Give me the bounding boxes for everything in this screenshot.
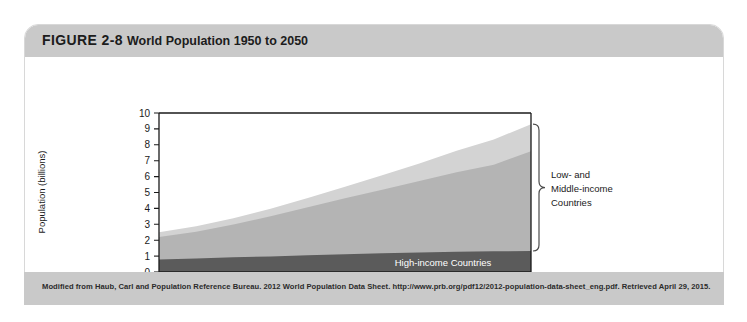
y-tick-label: 2 <box>144 235 150 246</box>
y-tick-label: 6 <box>144 171 150 182</box>
y-axis-title: Population (billions) <box>36 151 47 234</box>
brace-label-line-3: Countries <box>551 197 592 208</box>
y-tick-label: 8 <box>144 139 150 150</box>
low-middle-income-brace-icon <box>533 124 545 251</box>
y-axis-ticks: 012345678910 <box>139 108 159 278</box>
high-income-band-label: High-income Countries <box>395 257 492 268</box>
y-tick-label: 10 <box>139 108 151 119</box>
chart-plot-area: 012345678910 195019701990201020302050 Po… <box>25 57 724 299</box>
figure-card: FIGURE 2-8World Population 1950 to 2050 … <box>24 24 724 299</box>
low-middle-income-brace-label: Low- and Middle-income Countries <box>551 169 613 208</box>
figure-header-bar: FIGURE 2-8World Population 1950 to 2050 <box>25 25 723 57</box>
brace-label-line-2: Middle-income <box>551 183 613 194</box>
figure-footer-band: Modified from Haub, Carl and Population … <box>24 272 724 305</box>
y-tick-label: 3 <box>144 219 150 230</box>
population-area-chart: 012345678910 195019701990201020302050 Po… <box>25 57 724 299</box>
y-tick-label: 5 <box>144 187 150 198</box>
y-tick-label: 4 <box>144 203 150 214</box>
brace-label-line-1: Low- and <box>551 169 590 180</box>
y-tick-label: 7 <box>144 155 150 166</box>
figure-title-text: World Population 1950 to 2050 <box>127 34 308 48</box>
y-tick-label: 9 <box>144 123 150 134</box>
y-tick-label: 1 <box>144 251 150 262</box>
figure-source-text: Modified from Haub, Carl and Population … <box>42 282 711 291</box>
figure-number: FIGURE 2-8 <box>42 32 123 48</box>
page-title: FIGURE 2-8World Population 1950 to 2050 <box>42 32 308 48</box>
